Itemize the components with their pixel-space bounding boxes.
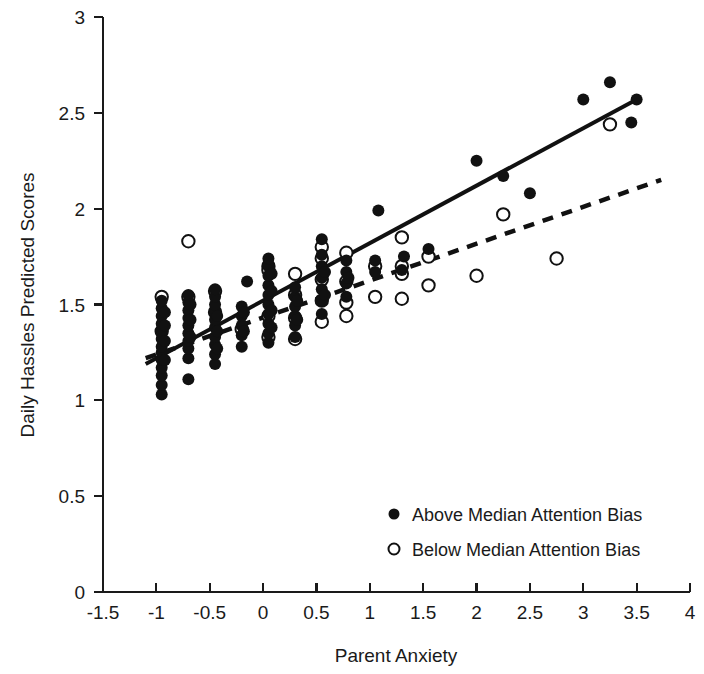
x-tick-label: 1.5 xyxy=(410,602,436,623)
y-tick-label: 2 xyxy=(74,199,85,220)
legend-label-above-median: Above Median Attention Bias xyxy=(412,505,642,525)
x-tick-label: 3 xyxy=(578,602,589,623)
data-point-above-median xyxy=(185,299,197,311)
data-point-above-median xyxy=(159,354,171,366)
scatter-plot-figure: 00.511.522.53 -1.5-1-0.500.511.522.533.5… xyxy=(0,0,704,674)
data-point-above-median xyxy=(423,243,435,255)
data-point-above-median xyxy=(209,283,221,295)
data-point-above-median xyxy=(211,325,223,337)
x-tick-label: 2 xyxy=(471,602,482,623)
data-point-above-median xyxy=(625,116,637,128)
data-point-below-median xyxy=(550,252,562,264)
data-point-above-median xyxy=(266,304,278,316)
y-axis-title: Daily Hassles Predicted Scores xyxy=(17,172,38,437)
data-point-above-median xyxy=(262,253,274,265)
legend-label-below-median: Below Median Attention Bias xyxy=(412,540,640,560)
data-point-above-median xyxy=(159,335,171,347)
data-point-above-median xyxy=(211,343,223,355)
data-point-above-median xyxy=(182,373,194,385)
data-point-above-median xyxy=(211,310,223,322)
x-tick-label: 3.5 xyxy=(623,602,649,623)
chart-canvas: 00.511.522.53 -1.5-1-0.500.511.522.533.5… xyxy=(0,0,704,674)
y-tick-label: 3 xyxy=(74,7,85,28)
data-point-below-median xyxy=(182,235,194,247)
data-point-below-median xyxy=(369,291,381,303)
data-point-above-median xyxy=(316,233,328,245)
data-point-above-median xyxy=(266,268,278,280)
data-point-below-median xyxy=(497,208,509,220)
x-tick-label: -1 xyxy=(148,602,165,623)
data-point-above-median xyxy=(369,254,381,266)
data-point-above-median xyxy=(396,264,408,276)
data-point-above-median xyxy=(156,295,168,307)
legend-marker-filled-circle-icon xyxy=(389,509,400,520)
legend-marker-open-circle-icon xyxy=(389,544,400,555)
y-axis-tick-labels: 00.511.522.53 xyxy=(59,7,85,603)
data-point-above-median xyxy=(241,276,253,288)
data-point-above-median xyxy=(319,289,331,301)
data-point-above-median xyxy=(238,306,250,318)
data-point-above-median xyxy=(316,249,328,261)
data-point-above-median xyxy=(159,320,171,332)
y-tick-label: 2.5 xyxy=(59,103,85,124)
x-tick-label: 4 xyxy=(685,602,696,623)
data-point-below-median xyxy=(422,279,434,291)
data-point-above-median xyxy=(266,285,278,297)
data-point-above-median xyxy=(577,93,589,105)
data-point-above-median xyxy=(266,322,278,334)
x-tick-label: 0 xyxy=(258,602,269,623)
data-point-below-median xyxy=(340,310,352,322)
data-point-above-median xyxy=(159,306,171,318)
x-tick-label: -0.5 xyxy=(193,602,226,623)
x-tick-label: 0.5 xyxy=(303,602,329,623)
data-point-above-median xyxy=(319,266,331,278)
x-tick-label: 2.5 xyxy=(517,602,543,623)
data-point-above-median xyxy=(631,93,643,105)
data-point-below-median xyxy=(396,231,408,243)
data-point-above-median xyxy=(369,266,381,278)
data-point-below-median xyxy=(396,293,408,305)
legend: Above Median Attention Bias Below Median… xyxy=(389,505,643,560)
data-point-above-median xyxy=(342,272,354,284)
y-tick-label: 1 xyxy=(74,390,85,411)
data-point-above-median xyxy=(340,254,352,266)
y-tick-label: 1.5 xyxy=(59,295,85,316)
data-point-above-median xyxy=(340,291,352,303)
y-axis-ticks xyxy=(94,17,103,592)
x-tick-label: -1.5 xyxy=(87,602,120,623)
data-point-above-median xyxy=(185,314,197,326)
data-point-above-median xyxy=(185,331,197,343)
data-point-above-median xyxy=(471,155,483,167)
data-point-above-median xyxy=(497,170,509,182)
data-point-above-median xyxy=(604,76,616,88)
x-axis-title: Parent Anxiety xyxy=(335,645,458,666)
data-point-above-median xyxy=(289,281,301,293)
data-point-above-median xyxy=(236,341,248,353)
data-point-above-median xyxy=(524,187,536,199)
data-point-above-median xyxy=(398,251,410,263)
data-point-above-median xyxy=(291,314,303,326)
data-point-above-median xyxy=(291,295,303,307)
data-point-below-median xyxy=(470,270,482,282)
data-point-above-median xyxy=(316,308,328,320)
data-points-below-median xyxy=(156,118,617,345)
y-tick-label: 0.5 xyxy=(59,486,85,507)
data-point-above-median xyxy=(289,331,301,343)
data-point-above-median xyxy=(238,325,250,337)
data-point-below-median xyxy=(604,118,616,130)
data-point-below-median xyxy=(289,268,301,280)
y-tick-label: 0 xyxy=(74,582,85,603)
x-tick-label: 1 xyxy=(365,602,376,623)
data-point-above-median xyxy=(372,205,384,217)
x-axis-tick-labels: -1.5-1-0.500.511.522.533.54 xyxy=(87,602,696,623)
x-axis-ticks xyxy=(103,583,690,592)
